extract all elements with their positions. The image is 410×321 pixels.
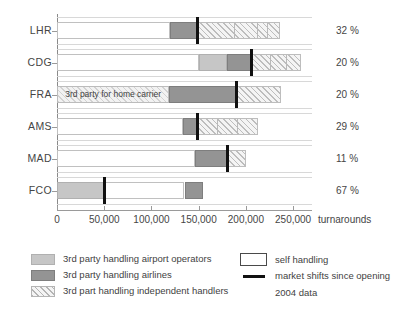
bar-segment-cdg-indep <box>251 54 301 71</box>
bar-segment-mad-airlines <box>195 150 227 167</box>
row-guide-line <box>57 113 312 114</box>
row-guide-line <box>57 204 312 205</box>
market-shift-marker-cdg <box>250 49 253 76</box>
row-guide-line <box>57 17 312 18</box>
bar-segment-cdg-self <box>57 54 199 71</box>
row-guide-line <box>57 145 312 146</box>
legend-label-data-year: 2004 data <box>275 287 317 298</box>
x-tick <box>246 206 247 211</box>
legend-swatch-self-handling <box>240 253 267 266</box>
bar-segment-cdg-airlines <box>227 54 251 71</box>
row-percent-fco: 67 % <box>336 185 384 196</box>
row-guide-line <box>57 177 312 178</box>
bar-subdivision <box>270 55 271 70</box>
bar-subdivision <box>217 119 218 134</box>
bar-subdivision <box>267 23 268 38</box>
row-guide-line <box>57 76 312 77</box>
row-guide-line <box>57 108 312 109</box>
row-percent-cdg: 20 % <box>336 57 384 68</box>
bar-subdivision <box>286 55 287 70</box>
bar-subdivision <box>237 119 238 134</box>
category-label-ams: AMS <box>4 120 52 132</box>
bar-segment-lhr-self <box>57 22 170 39</box>
category-label-fco: FCO <box>4 184 52 196</box>
legend-label-self-handling: self handling <box>275 254 328 265</box>
row-guide-line <box>57 81 312 82</box>
row-percent-lhr: 32 % <box>336 25 384 36</box>
legend-marker-line-icon <box>243 275 265 278</box>
market-shift-marker-fra <box>235 81 238 108</box>
bar-segment-fco-airlines <box>185 182 204 199</box>
x-tick <box>151 206 152 211</box>
bar-subdivision <box>234 23 235 38</box>
row-guide-line <box>57 140 312 141</box>
row-percent-mad: 11 % <box>336 153 384 164</box>
x-tick <box>104 206 105 211</box>
bar-segment-fco-self <box>104 182 184 199</box>
market-shift-marker-lhr <box>196 17 199 44</box>
row-guide-line <box>57 44 312 45</box>
bar-subdivision <box>257 23 258 38</box>
x-tick-label: 250,000 <box>263 214 323 225</box>
bar-segment-fra-indep <box>236 86 280 103</box>
chart-root: LHR32 %CDG20 %FRA20 %3rd party for home … <box>0 0 410 321</box>
x-tick <box>57 206 58 211</box>
row-percent-fra: 20 % <box>336 89 384 100</box>
category-label-mad: MAD <box>4 152 52 164</box>
category-label-cdg: CDG <box>4 56 52 68</box>
row-guide-line <box>57 172 312 173</box>
bar-segment-fco-airport <box>57 182 104 199</box>
bar-segment-mad-indep <box>227 150 246 167</box>
bar-segment-fra-airlines <box>169 86 236 103</box>
x-tick <box>199 206 200 211</box>
x-tick <box>293 206 294 211</box>
category-label-lhr: LHR <box>4 24 52 36</box>
bar-segment-mad-self <box>57 150 195 167</box>
bar-segment-lhr-airlines <box>170 22 196 39</box>
legend-swatch-independent-handlers <box>31 286 55 297</box>
x-axis <box>57 210 312 211</box>
legend-label-airport-operators: 3rd party handling airport operators <box>63 253 211 264</box>
annotation-home-carrier: 3rd party for home carrier <box>57 86 169 103</box>
bar-segment-ams-self <box>57 118 183 135</box>
market-shift-marker-ams <box>196 113 199 140</box>
x-axis-unit-label: turnarounds <box>318 214 371 225</box>
row-guide-line <box>57 49 312 50</box>
category-label-fra: FRA <box>4 88 52 100</box>
chart-legend: 3rd party handling airport operators 3rd… <box>0 244 410 306</box>
bar-segment-ams-airlines <box>183 118 197 135</box>
legend-swatch-airport-operators <box>31 254 55 265</box>
bar-segment-cdg-airport <box>199 54 227 71</box>
bar-segment-ams-indep <box>197 118 258 135</box>
row-percent-ams: 29 % <box>336 121 384 132</box>
market-shift-marker-mad <box>226 145 229 172</box>
legend-label-airlines: 3rd party handling airlines <box>63 269 172 280</box>
market-shift-marker-fco <box>103 177 106 204</box>
legend-swatch-airlines <box>31 270 55 281</box>
legend-label-independent-handlers: 3rd part handling independent handlers <box>63 285 228 296</box>
legend-label-market-shifts: market shifts since opening <box>275 270 390 281</box>
